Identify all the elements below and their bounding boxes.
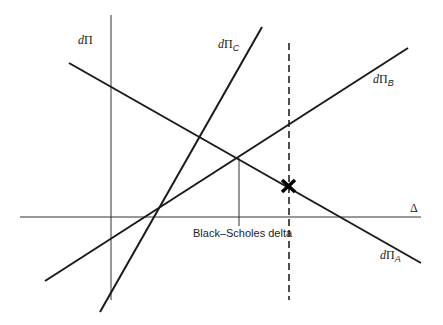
line-dpi-c — [100, 27, 262, 312]
horizontal-axis-label: Δ — [410, 201, 418, 215]
hedging-diagram: dΠ Δ dΠC dΠB dΠA Black–Scholes delta — [0, 0, 443, 325]
black-scholes-delta-label: Black–Scholes delta — [193, 227, 293, 239]
vertical-axis-label: dΠ — [78, 33, 93, 47]
line-dpi-b — [45, 48, 408, 281]
line-dpi-b-label: dΠB — [373, 72, 394, 88]
line-dpi-c-label: dΠC — [218, 37, 240, 53]
